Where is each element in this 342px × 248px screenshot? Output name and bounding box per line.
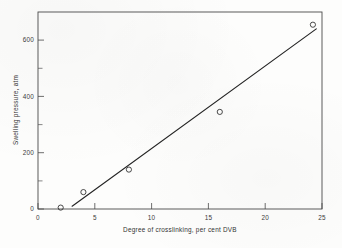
- y-axis-title: Swelling pressure, atm: [12, 75, 20, 145]
- x-tick-label-25: 25: [318, 214, 326, 221]
- data-point: [310, 22, 315, 27]
- y-tick-labels: 0 200 400 600: [23, 36, 35, 212]
- y-tick-label-400: 400: [23, 93, 35, 100]
- x-tick-label-10: 10: [148, 214, 156, 221]
- linear-fit-line: [72, 29, 316, 206]
- x-tick-labels: 0 5 10 15 20 25: [36, 214, 326, 221]
- data-point: [217, 109, 222, 114]
- plot-frame: [38, 12, 322, 209]
- x-axis-ticks: [38, 203, 322, 209]
- x-tick-label-20: 20: [261, 214, 269, 221]
- y-tick-label-0: 0: [30, 205, 34, 212]
- scatter-plot: 0 200 400 600 0 5 10 15 20 25 Degree of …: [0, 0, 342, 248]
- y-tick-label-200: 200: [23, 149, 35, 156]
- x-tick-label-0: 0: [36, 214, 40, 221]
- data-point: [81, 190, 86, 195]
- data-points: [58, 22, 315, 210]
- y-axis-ticks: [38, 40, 44, 209]
- x-axis-title: Degree of crosslinking, per cent DVB: [123, 226, 237, 234]
- data-point: [126, 167, 131, 172]
- x-tick-label-15: 15: [205, 214, 213, 221]
- x-tick-label-5: 5: [93, 214, 97, 221]
- figure-container: 0 200 400 600 0 5 10 15 20 25 Degree of …: [0, 0, 342, 248]
- y-tick-label-600: 600: [23, 36, 35, 43]
